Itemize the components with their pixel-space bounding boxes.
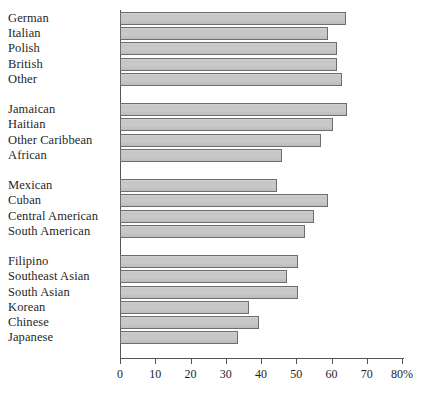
category-label: Central American <box>8 210 112 223</box>
bar <box>120 149 282 162</box>
x-tick-label: 20 <box>171 367 211 381</box>
bar <box>120 134 321 147</box>
bar <box>120 194 328 207</box>
x-tick-20 <box>191 358 192 364</box>
bar <box>120 301 249 314</box>
x-tick-60 <box>332 358 333 364</box>
plot-area: 01020304050607080% <box>120 10 404 358</box>
bar <box>120 118 333 131</box>
bar <box>120 12 346 25</box>
bar <box>120 210 314 223</box>
category-label: British <box>8 58 112 71</box>
x-tick-label: 70 <box>347 367 387 381</box>
x-tick-label: 50 <box>276 367 316 381</box>
category-label: Italian <box>8 27 112 40</box>
category-label: Polish <box>8 42 112 55</box>
x-tick-label: 30 <box>206 367 246 381</box>
x-tick-10 <box>155 358 156 364</box>
x-tick-label: 60 <box>312 367 352 381</box>
bar <box>120 255 298 268</box>
x-tick-label: 0 <box>100 367 140 381</box>
x-tick-50 <box>296 358 297 364</box>
category-label: South Asian <box>8 286 112 299</box>
category-label: Jamaican <box>8 103 112 116</box>
bar <box>120 73 342 86</box>
category-label: South American <box>8 225 112 238</box>
category-label-column: GermanItalianPolishBritishOtherJamaicanH… <box>0 0 116 395</box>
x-tick-80 <box>402 358 403 364</box>
bar <box>120 42 337 55</box>
category-label: Japanese <box>8 331 112 344</box>
x-axis-line <box>120 358 404 359</box>
category-label: Mexican <box>8 179 112 192</box>
category-label: Korean <box>8 301 112 314</box>
bar <box>120 270 287 283</box>
category-label: African <box>8 149 112 162</box>
category-label: Chinese <box>8 316 112 329</box>
bar-chart: GermanItalianPolishBritishOtherJamaicanH… <box>0 0 421 395</box>
category-label: Southeast Asian <box>8 270 112 283</box>
category-label: Other Caribbean <box>8 134 112 147</box>
x-tick-label: 40 <box>241 367 281 381</box>
bar <box>120 27 328 40</box>
bar <box>120 286 298 299</box>
bar <box>120 103 347 116</box>
x-tick-40 <box>261 358 262 364</box>
bar <box>120 316 259 329</box>
bar <box>120 225 305 238</box>
bar <box>120 331 238 344</box>
category-label: Haitian <box>8 118 112 131</box>
x-tick-30 <box>226 358 227 364</box>
x-tick-70 <box>367 358 368 364</box>
bar <box>120 179 277 192</box>
category-label: Filipino <box>8 255 112 268</box>
category-label: German <box>8 12 112 25</box>
bar <box>120 58 337 71</box>
category-label: Other <box>8 73 112 86</box>
x-tick-0 <box>120 358 121 364</box>
x-tick-label: 10 <box>135 367 175 381</box>
x-tick-label: 80% <box>382 367 421 381</box>
category-label: Cuban <box>8 194 112 207</box>
